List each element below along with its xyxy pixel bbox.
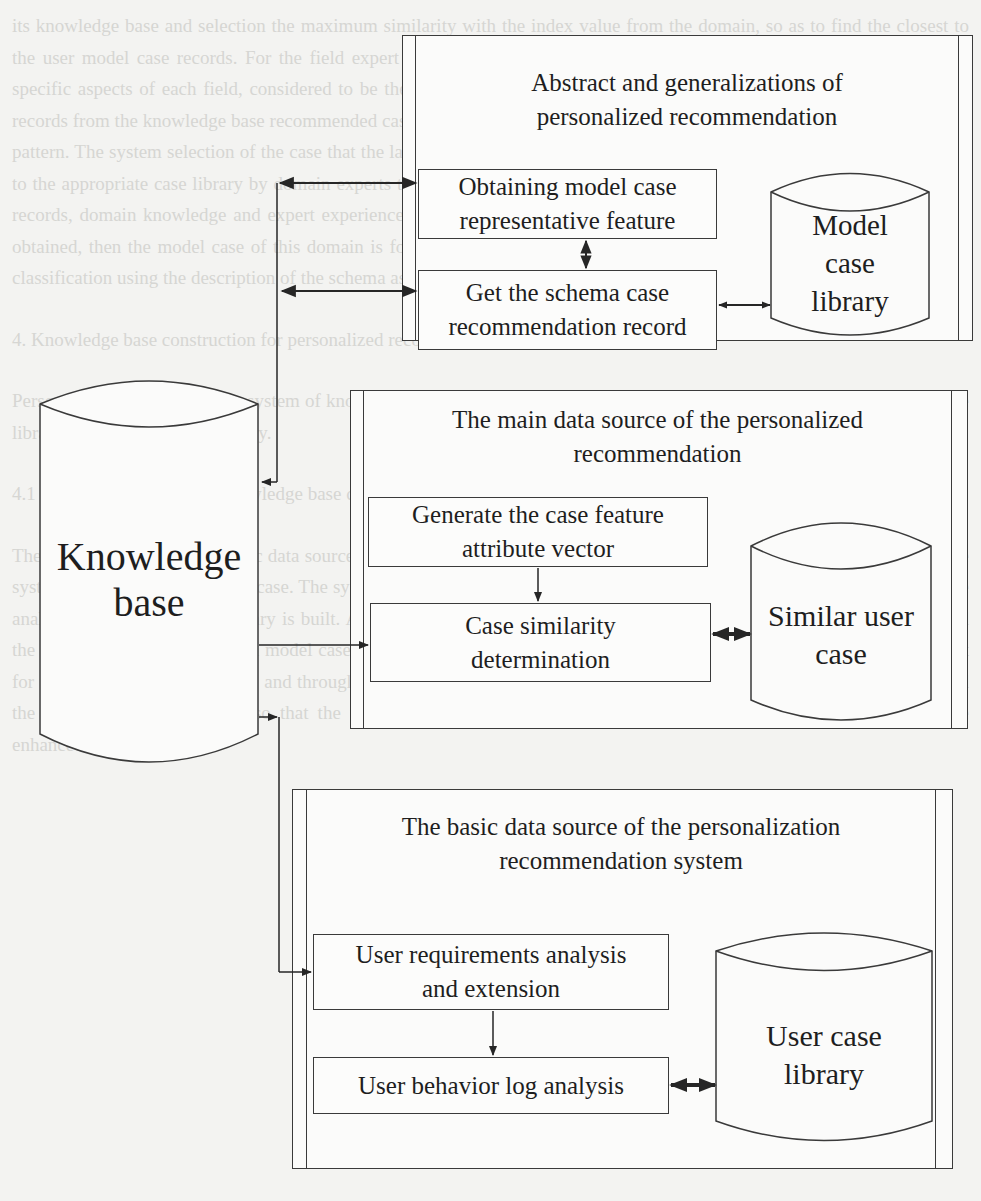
cylinder-label-line: library (811, 282, 888, 320)
cylinder-label-line: case (768, 635, 914, 673)
cylinder-label-line: Similar user (768, 597, 914, 635)
cylinder-label-line: base (57, 580, 241, 626)
cylinder-label-line: Model (811, 206, 888, 244)
cylinder-label-line: case (811, 244, 888, 282)
user-case-library-label: User case library (716, 1015, 932, 1095)
connector-kb-to-user-requirements (259, 717, 311, 972)
cylinder-label-line: library (766, 1055, 882, 1093)
model-case-library-label: Model case library (771, 198, 929, 328)
knowledge-base-label: Knowledge base (40, 520, 258, 640)
connector-kb-to-abstract (262, 183, 416, 482)
cylinder-label-line: Knowledge (57, 534, 241, 580)
similar-user-case-label: Similar user case (751, 590, 931, 680)
cylinder-label-line: User case (766, 1017, 882, 1055)
